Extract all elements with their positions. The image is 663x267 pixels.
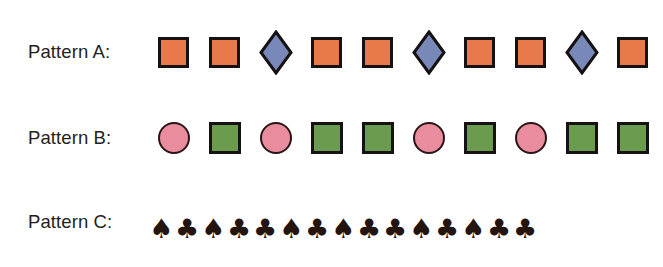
club-icon: ♣: [175, 215, 199, 242]
spade-icon: ♠: [279, 215, 303, 242]
spade-icon: ♠: [331, 215, 355, 242]
club-icon: ♣: [305, 215, 329, 242]
pattern-b-label: Pattern B:: [0, 127, 148, 149]
shape-cell: ♣: [512, 202, 538, 242]
square-green-shape: [566, 122, 598, 154]
shape-cell: ♣: [226, 202, 252, 242]
spade-icon: ♠: [461, 215, 485, 242]
shape-cell: [607, 24, 658, 80]
circle-pink-shape: [158, 122, 190, 154]
shape-cell: ♣: [356, 202, 382, 242]
pattern-row-a: Pattern A:: [0, 22, 658, 82]
spade-icon: ♠: [409, 215, 433, 242]
shape-cell: [607, 110, 658, 166]
shape-cell: [250, 24, 301, 80]
shape-cell: ♣: [486, 202, 512, 242]
shape-cell: ♠: [278, 202, 304, 242]
shape-cell: ♣: [304, 202, 330, 242]
shape-cell: ♠: [408, 202, 434, 242]
shape-cell: ♠: [148, 202, 174, 242]
pattern-c-shape-strip: ♠♣♠♣♣♠♣♠♣♣♠♣♠♣♣: [148, 202, 538, 242]
square-green-shape: [311, 122, 343, 154]
spade-icon: ♠: [201, 215, 225, 242]
shape-cell: ♠: [460, 202, 486, 242]
shape-cell: ♣: [434, 202, 460, 242]
circle-pink-shape: [260, 122, 292, 154]
pattern-a-shape-strip: [148, 24, 658, 80]
square-green-shape: [362, 122, 394, 154]
shape-cell: [403, 110, 454, 166]
shape-cell: ♠: [330, 202, 356, 242]
club-icon: ♣: [253, 215, 277, 242]
shape-cell: [505, 110, 556, 166]
square-green-shape: [209, 122, 241, 154]
diamond-blue-shape: [259, 30, 293, 75]
shape-cell: [148, 110, 199, 166]
pattern-b-shape-strip: [148, 110, 658, 166]
shape-cell: [250, 110, 301, 166]
shape-cell: [403, 24, 454, 80]
shape-cell: [454, 24, 505, 80]
club-icon: ♣: [435, 215, 459, 242]
club-icon: ♣: [357, 215, 381, 242]
circle-pink-shape: [413, 122, 445, 154]
pattern-worksheet: Pattern A: Pattern B: Pattern C: ♠♣♠♣♣♠♣…: [0, 0, 663, 267]
diamond-blue-shape: [565, 30, 599, 75]
shape-cell: [556, 110, 607, 166]
pattern-row-b: Pattern B:: [0, 108, 658, 168]
spade-icon: ♠: [149, 215, 173, 242]
square-orange-shape: [362, 37, 393, 68]
shape-cell: [148, 24, 199, 80]
shape-cell: ♣: [252, 202, 278, 242]
shape-cell: [199, 24, 250, 80]
square-orange-shape: [617, 37, 648, 68]
shape-cell: [301, 110, 352, 166]
square-orange-shape: [209, 37, 240, 68]
circle-pink-shape: [515, 122, 547, 154]
square-green-shape: [617, 122, 649, 154]
shape-cell: [505, 24, 556, 80]
shape-cell: [352, 24, 403, 80]
club-icon: ♣: [383, 215, 407, 242]
shape-cell: ♠: [200, 202, 226, 242]
diamond-blue-shape: [412, 30, 446, 75]
pattern-a-label: Pattern A:: [0, 41, 148, 63]
shape-cell: ♣: [382, 202, 408, 242]
shape-cell: [352, 110, 403, 166]
shape-cell: [556, 24, 607, 80]
club-icon: ♣: [487, 215, 511, 242]
shape-cell: [454, 110, 505, 166]
club-icon: ♣: [513, 215, 537, 242]
square-orange-shape: [158, 37, 189, 68]
club-icon: ♣: [227, 215, 251, 242]
square-orange-shape: [515, 37, 546, 68]
shape-cell: ♣: [174, 202, 200, 242]
square-orange-shape: [464, 37, 495, 68]
square-green-shape: [464, 122, 496, 154]
shape-cell: [199, 110, 250, 166]
square-orange-shape: [311, 37, 342, 68]
shape-cell: [301, 24, 352, 80]
pattern-row-c: Pattern C: ♠♣♠♣♣♠♣♠♣♣♠♣♠♣♣: [0, 192, 538, 252]
pattern-c-label: Pattern C:: [0, 211, 148, 233]
